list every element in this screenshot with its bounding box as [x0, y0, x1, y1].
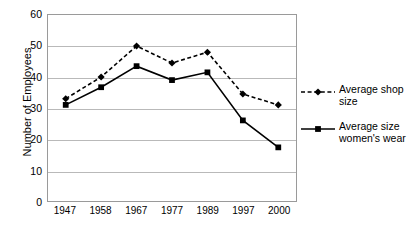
legend-label: Average shop size: [336, 84, 416, 107]
legend-marker-icon: [300, 85, 336, 99]
plot-area: [47, 14, 297, 202]
x-axis-tick-labels: 1947195819671977198919972000: [47, 205, 297, 223]
line-chart: Number of Employees 0102030405060 194719…: [0, 0, 416, 235]
y-tick-label: 0: [2, 196, 42, 208]
data-point-marker: [275, 145, 281, 151]
y-tick-label: 40: [2, 71, 42, 83]
y-tick-label: 50: [2, 39, 42, 51]
legend-label: Average size women's wear: [336, 121, 406, 144]
data-point-marker: [315, 126, 321, 132]
data-point-marker: [205, 69, 211, 75]
x-tick-label: 2000: [254, 205, 304, 216]
data-point-marker: [62, 95, 69, 102]
data-point-marker: [98, 73, 105, 80]
data-point-marker: [134, 63, 140, 69]
data-point-marker: [98, 84, 104, 90]
y-axis-tick-labels: 0102030405060: [0, 14, 42, 202]
series-lines: [48, 15, 296, 201]
data-point-marker: [240, 118, 246, 124]
data-point-marker: [314, 88, 321, 95]
data-point-marker: [275, 101, 282, 108]
data-point-marker: [204, 49, 211, 56]
y-tick-label: 30: [2, 102, 42, 114]
series-line: [66, 46, 279, 105]
y-tick-label: 60: [2, 8, 42, 20]
data-point-marker: [169, 77, 175, 83]
data-point-marker: [168, 59, 175, 66]
chart-legend: Average shop sizeAverage size women's we…: [300, 84, 416, 158]
data-point-marker: [63, 102, 69, 108]
legend-entry: Average shop size: [300, 84, 416, 107]
legend-marker-icon: [300, 122, 336, 136]
y-tick-label: 10: [2, 165, 42, 177]
legend-entry: Average size women's wear: [300, 121, 416, 144]
y-tick-label: 20: [2, 133, 42, 145]
